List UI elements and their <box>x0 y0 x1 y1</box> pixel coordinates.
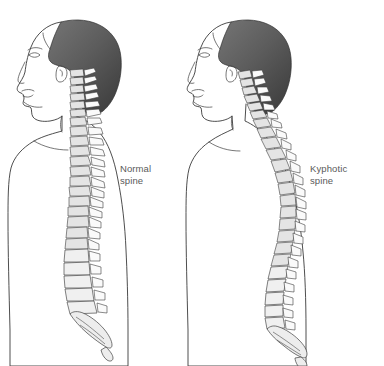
spine-comparison-illustration: Normal spine <box>0 0 384 366</box>
normal-spine-label-line2: spine <box>120 175 143 186</box>
kyphotic-spine-label-line2: spine <box>310 175 333 186</box>
kyphotic-spine-label-line1: Kyphotic <box>310 163 347 174</box>
normal-spine-label-line1: Normal <box>120 163 151 174</box>
